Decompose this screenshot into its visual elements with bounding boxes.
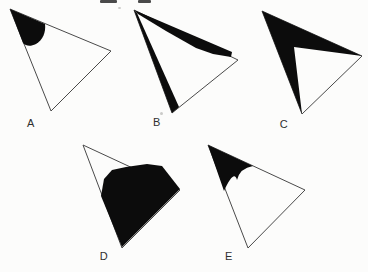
triangle-a-shaded-region (10, 9, 45, 46)
triangle-e-shaded-region (208, 145, 253, 191)
option-c-figure (262, 11, 362, 114)
option-d-figure (83, 145, 180, 248)
option-a-label: A (27, 117, 35, 130)
option-d-label: D (100, 250, 108, 263)
scanned-figure-page: A B C D E (0, 0, 368, 272)
option-b-label: B (153, 116, 161, 129)
triangle-d-shaded-region (101, 164, 180, 247)
option-e-label: E (225, 250, 233, 263)
option-e-figure (208, 145, 305, 248)
option-c-label: C (280, 118, 288, 131)
option-b-figure (134, 10, 238, 113)
triangle-c-shaded-region (262, 11, 362, 114)
triangle-b-outline (134, 10, 238, 113)
option-a-figure (10, 9, 111, 111)
triangle-options-canvas (0, 0, 368, 272)
triangle-b-shaded-region-left (134, 10, 179, 113)
